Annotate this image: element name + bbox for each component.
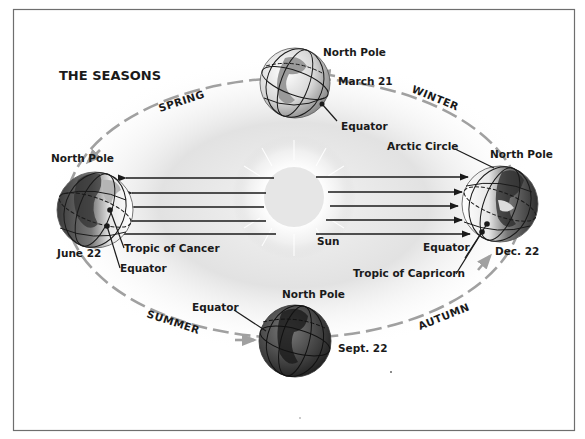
september-date-label: Sept. 22: [338, 342, 387, 354]
june-date-label: June 22: [56, 247, 101, 259]
speck: [390, 371, 392, 373]
december-equator-label: Equator: [423, 241, 470, 253]
december-north-pole-label: North Pole: [490, 148, 553, 160]
march-north-pole-label: North Pole: [323, 46, 386, 58]
june-equator-label: Equator: [120, 262, 167, 274]
december-arctic-circle-label: Arctic Circle: [387, 140, 458, 152]
sun-label: Sun: [317, 235, 340, 247]
september-equator-label: Equator: [192, 301, 239, 313]
seasons-diagram: Sun THE SEASONS SPRING WINTER SUMMER AUT…: [0, 0, 585, 439]
september-north-pole-label: North Pole: [282, 288, 345, 300]
diagram-title: THE SEASONS: [59, 68, 161, 83]
june-north-pole-label: North Pole: [51, 152, 114, 164]
march-equator-label: Equator: [341, 120, 388, 132]
december-date-label: Dec. 22: [495, 245, 539, 257]
december-tropic-of-capricorn-label: Tropic of Capricorn: [353, 267, 465, 279]
speck: [299, 417, 301, 419]
june-tropic-of-cancer-label: Tropic of Cancer: [124, 242, 220, 254]
sun-disc: [264, 167, 324, 227]
march-date-label: March 21: [338, 75, 393, 87]
